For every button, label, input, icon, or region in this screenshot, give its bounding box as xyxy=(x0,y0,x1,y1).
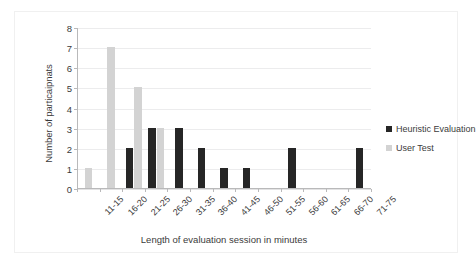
x-tick-mark xyxy=(145,189,146,192)
x-tick-mark xyxy=(281,189,282,192)
bar[interactable] xyxy=(220,168,228,188)
bar[interactable] xyxy=(134,87,142,188)
bar-group xyxy=(235,27,258,188)
legend-item[interactable]: Heuristic Evaluation xyxy=(386,124,476,134)
legend-item[interactable]: User Test xyxy=(386,143,476,153)
y-tick-label: 0 xyxy=(67,184,72,195)
legend-swatch-icon xyxy=(386,145,392,151)
legend-label: User Test xyxy=(396,143,434,153)
x-tick-label: 16-20 xyxy=(126,194,149,217)
x-tick-label: 71-75 xyxy=(374,194,397,217)
gridline xyxy=(77,189,371,190)
chart-legend: Heuristic EvaluationUser Test xyxy=(386,124,476,162)
y-tick-label: 2 xyxy=(67,143,72,154)
x-tick-mark xyxy=(235,189,236,192)
bar[interactable] xyxy=(175,128,183,188)
x-tick-label: 46-50 xyxy=(261,194,284,217)
bar[interactable] xyxy=(243,168,251,188)
bar-group xyxy=(348,27,371,188)
x-tick-mark xyxy=(213,189,214,192)
x-tick-mark xyxy=(326,189,327,192)
x-tick-label: 21-25 xyxy=(148,194,171,217)
legend-label: Heuristic Evaluation xyxy=(396,124,476,134)
x-tick-label: 61-65 xyxy=(329,194,352,217)
bar[interactable] xyxy=(126,148,134,188)
x-tick-label: 36-40 xyxy=(216,194,239,217)
x-tick-mark xyxy=(348,189,349,192)
bar[interactable] xyxy=(356,148,364,188)
plot-area: 012345678 11-1516-2021-2526-3031-3536-40… xyxy=(77,28,371,189)
y-tick-label: 4 xyxy=(67,103,72,114)
bar-group xyxy=(145,27,168,188)
x-tick-label: 41-45 xyxy=(239,194,262,217)
x-tick-mark xyxy=(371,189,372,192)
x-tick-label: 56-60 xyxy=(307,194,330,217)
bar-group xyxy=(77,27,100,188)
y-tick-label: 1 xyxy=(67,163,72,174)
x-axis-line xyxy=(77,188,371,189)
bar[interactable] xyxy=(85,168,93,188)
x-tick-mark xyxy=(190,189,191,192)
bar-group xyxy=(213,27,236,188)
bar[interactable] xyxy=(288,148,296,188)
bar[interactable] xyxy=(157,128,165,188)
x-tick-mark xyxy=(303,189,304,192)
x-tick-mark xyxy=(77,189,78,192)
y-axis-title: Number of particaipnats xyxy=(43,34,54,194)
x-tick-label: 11-15 xyxy=(103,194,126,217)
chart-frame: Number of particaipnats 012345678 11-151… xyxy=(14,11,458,253)
x-tick-mark xyxy=(258,189,259,192)
y-tick-label: 6 xyxy=(67,63,72,74)
y-tick-label: 8 xyxy=(67,23,72,34)
bar-group xyxy=(190,27,213,188)
legend-swatch-icon xyxy=(386,126,392,132)
x-tick-mark xyxy=(100,189,101,192)
bar-group xyxy=(281,27,304,188)
x-tick-label: 31-35 xyxy=(194,194,217,217)
bar[interactable] xyxy=(107,47,115,188)
bar-group xyxy=(303,27,326,188)
y-tick-label: 7 xyxy=(67,43,72,54)
x-axis-title: Length of evaluation session in minutes xyxy=(77,234,371,245)
y-tick-label: 3 xyxy=(67,123,72,134)
bar-group xyxy=(258,27,281,188)
x-tick-label: 51-55 xyxy=(284,194,307,217)
y-axis-line xyxy=(77,28,78,189)
plot-inner: 012345678 xyxy=(77,28,371,189)
x-tick-mark xyxy=(122,189,123,192)
bar[interactable] xyxy=(198,148,206,188)
bar-group xyxy=(122,27,145,188)
bar-group xyxy=(326,27,349,188)
y-tick-label: 5 xyxy=(67,83,72,94)
x-tick-mark xyxy=(167,189,168,192)
bar-group xyxy=(167,27,190,188)
bar[interactable] xyxy=(148,128,156,188)
x-tick-label: 66-70 xyxy=(352,194,375,217)
x-tick-label: 26-30 xyxy=(171,194,194,217)
bar-group xyxy=(100,27,123,188)
